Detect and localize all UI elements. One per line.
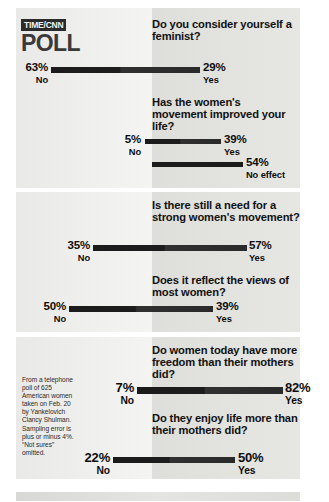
bar-1-right-label: Yes: [203, 75, 225, 86]
page-title: POLL: [21, 33, 80, 54]
bar-1-left-value: 63% No: [0, 62, 48, 85]
bar-5-left-value: 7% No: [82, 381, 134, 406]
bar-3-right-value: 57% Yes: [249, 240, 271, 263]
question-text-1: Do you consider yourself a feminist?: [152, 18, 298, 42]
bar-5-left-percent: 7%: [82, 381, 134, 394]
bar-row-2b: 54% No effect: [0, 157, 329, 181]
question-text-3: Is there still a need for a strong women…: [152, 199, 302, 223]
bar-2-right-label: Yes: [224, 147, 246, 158]
bar-3-left-value: 35% No: [40, 240, 90, 263]
footnote-text: From a telephone poll of 625 American wo…: [22, 376, 78, 457]
bar-2-right-value: 39% Yes: [224, 134, 246, 157]
poll-infographic: TIME/CNN POLL Do you consider yourself a…: [0, 0, 329, 502]
bar-6-right-percent: 50%: [238, 451, 263, 464]
bar-6: [113, 457, 235, 463]
bar-4-left-value: 50% No: [16, 301, 66, 324]
bar-2-left-value: 5% No: [92, 134, 141, 157]
bar-2-right-percent: 39%: [224, 134, 246, 146]
bar-4-left-label: No: [16, 314, 66, 325]
question-text-2: Has the women's movement improved your l…: [152, 96, 298, 133]
bar-3-left-label: No: [40, 253, 90, 264]
bar-1-right-percent: 29%: [203, 62, 225, 74]
bar-row-1: 63% No 29% Yes: [0, 62, 329, 86]
bar-2b-right-value: 54% No effect: [246, 157, 285, 180]
bar-4-right-value: 39% Yes: [216, 301, 238, 324]
bar-2b-right-percent: 54%: [246, 157, 285, 169]
bar-1-right-value: 29% Yes: [203, 62, 225, 85]
question-text-4: Does it reflect the views of most women?: [152, 274, 302, 298]
bar-5-right-percent: 82%: [285, 381, 310, 394]
bar-3-right-label: Yes: [249, 253, 271, 264]
bar-5-right-value: 82% Yes: [285, 381, 310, 406]
bar-1: [51, 67, 200, 73]
bar-4-right-percent: 39%: [216, 301, 238, 313]
bar-3-left-percent: 35%: [40, 240, 90, 252]
bar-6-right-label: Yes: [238, 465, 263, 476]
bar-4-left-percent: 50%: [16, 301, 66, 313]
bar-5-left-label: No: [82, 395, 134, 406]
bar-2-left-label: No: [92, 147, 141, 158]
bar-6-right-value: 50% Yes: [238, 451, 263, 476]
bar-row-3: 35% No 57% Yes: [0, 240, 329, 264]
brand-lockup: TIME/CNN POLL: [21, 14, 80, 54]
bar-1-left-label: No: [0, 75, 48, 86]
bar-row-4: 50% No 39% Yes: [0, 301, 329, 325]
bar-3-right-percent: 57%: [249, 240, 271, 252]
question-text-5: Do women today have more freedom than th…: [152, 344, 304, 381]
question-text-6: Do they enjoy life more than their mothe…: [152, 412, 302, 436]
bar-2b: [152, 162, 243, 167]
bar-6-left-label: No: [58, 465, 110, 476]
bar-2b-right-label: No effect: [246, 170, 285, 181]
bar-3: [93, 245, 247, 251]
bar-1-left-percent: 63%: [0, 62, 48, 74]
bar-row-2: 5% No 39% Yes: [0, 134, 329, 158]
bar-5-right-label: Yes: [285, 395, 310, 406]
bar-2-left-percent: 5%: [92, 134, 141, 146]
footer-strip: [16, 492, 300, 501]
bar-4: [69, 306, 213, 312]
bar-5: [137, 387, 283, 394]
bar-4-right-label: Yes: [216, 314, 238, 325]
bar-2: [145, 139, 221, 144]
